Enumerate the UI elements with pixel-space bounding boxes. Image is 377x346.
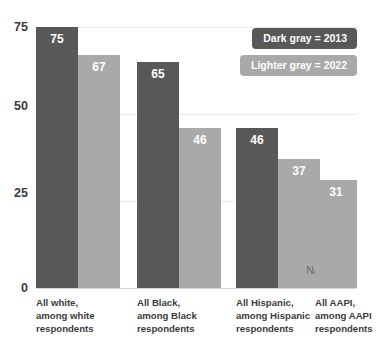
x-axis-labels: All white, among white respondents All B…	[36, 296, 357, 346]
bar-white-2013[interactable]: 75	[36, 27, 78, 288]
bar-black-2013[interactable]: 65	[137, 62, 179, 288]
x-axis-label-black-line1: All Black,	[137, 296, 232, 309]
bar-value-black-2022: 46	[179, 134, 221, 146]
x-axis-label-aapi-line3: respondents	[315, 322, 377, 335]
x-axis-label-black-line3: respondents	[137, 322, 232, 335]
bar-aapi-2022[interactable]: 31	[315, 180, 357, 288]
x-axis-label-white-line1: All white,	[36, 296, 131, 309]
x-axis-label-black: All Black, among Black respondents	[137, 296, 232, 336]
bar-white-2022[interactable]: 67	[78, 55, 120, 288]
x-axis-label-aapi: All AAPI, among AAPI respondents	[315, 296, 377, 336]
y-axis-tick-0: 0	[0, 282, 28, 295]
bar-hispanic-2013[interactable]: 46	[236, 128, 278, 288]
x-axis-label-aapi-line2: among AAPI	[315, 309, 377, 322]
axis-baseline	[36, 288, 357, 289]
y-axis-tick-75: 75	[0, 21, 28, 34]
y-axis-tick-50: 50	[0, 100, 28, 113]
legend-item-2022[interactable]: Lighter gray = 2022	[240, 55, 357, 76]
x-axis-label-white-line3: respondents	[36, 322, 131, 335]
bar-value-hispanic-2013: 46	[236, 134, 278, 146]
x-axis-label-black-line2: among Black	[137, 309, 232, 322]
y-axis-tick-25: 25	[0, 187, 28, 200]
bar-value-aapi-2022: 31	[315, 186, 357, 198]
bar-value-black-2013: 65	[137, 68, 179, 80]
bar-black-2022[interactable]: 46	[179, 128, 221, 288]
x-axis-label-white-line2: among white	[36, 309, 131, 322]
x-axis-label-aapi-line1: All AAPI,	[315, 296, 377, 309]
x-axis-label-white: All white, among white respondents	[36, 296, 131, 336]
legend: Dark gray = 2013 Lighter gray = 2022	[240, 28, 357, 76]
legend-item-2013[interactable]: Dark gray = 2013	[252, 28, 357, 49]
bar-value-hispanic-2022: 37	[278, 165, 320, 177]
bar-value-white-2013: 75	[36, 33, 78, 45]
bar-value-white-2022: 67	[78, 61, 120, 73]
y-axis: 75 50 25 0	[0, 0, 32, 346]
